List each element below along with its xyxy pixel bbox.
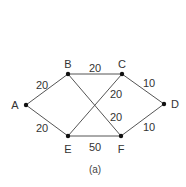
edge-weight-e-f: 50 [89,141,101,153]
edge-weight-a-e: 20 [36,122,48,134]
node-b [66,72,70,76]
node-c [120,72,124,76]
node-label-f: F [118,143,125,155]
node-label-d: D [171,98,179,110]
edge-weight-c-e: 20 [110,88,122,100]
edge-weight-c-d: 10 [143,77,155,89]
graph-diagram: 2020201010502020 ABCDEF (a) [0,0,186,187]
node-a [24,103,28,107]
edge-labels-group: 2020201010502020 [36,62,155,153]
edge-weight-b-f: 20 [110,111,122,123]
node-label-c: C [118,58,126,70]
node-d [162,102,166,106]
edge-weight-a-b: 20 [36,79,48,91]
node-label-b: B [64,58,71,70]
node-e [66,134,70,138]
figure-caption: (a) [89,164,101,175]
node-label-e: E [64,143,71,155]
node-f [119,134,123,138]
edge-weight-b-c: 20 [89,62,101,74]
node-label-a: A [11,99,19,111]
edge-weight-d-f: 10 [143,121,155,133]
